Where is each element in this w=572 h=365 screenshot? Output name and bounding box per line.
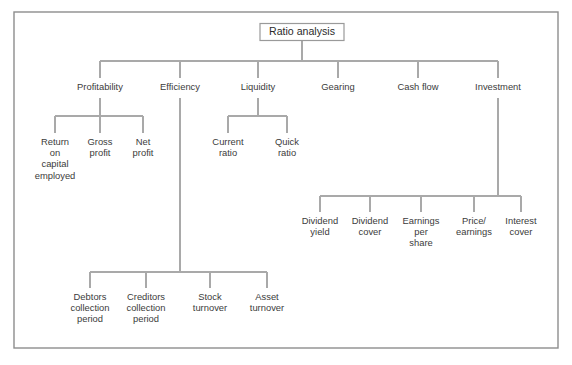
node-labels: ProfitabilityEfficiencyLiquidityGearingC… <box>35 81 537 324</box>
node-efficiency: Efficiency <box>160 81 200 92</box>
node-liquidity: Liquidity <box>241 81 276 92</box>
node-gearing: Gearing <box>321 81 354 92</box>
node-dividend-cover: Dividendcover <box>352 215 388 237</box>
node-current-ratio: Currentratio <box>212 136 244 158</box>
node-earnings-per-share: Earningspershare <box>402 215 439 248</box>
node-debtors-collection-period: Debtorscollectionperiod <box>70 291 109 324</box>
ratio-analysis-diagram: Ratio analysis ProfitabilityEfficiencyLi… <box>0 0 572 365</box>
tree-svg: Ratio analysis ProfitabilityEfficiencyLi… <box>0 0 572 365</box>
node-interest-cover: Interestcover <box>505 215 537 237</box>
node-investment: Investment <box>475 81 521 92</box>
node-gross-profit: Grossprofit <box>87 136 112 158</box>
node-return-on-capital-employed: Returnoncapitalemployed <box>35 136 76 181</box>
node-net-profit: Netprofit <box>133 136 154 158</box>
node-dividend-yield: Dividendyield <box>302 215 338 237</box>
node-quick-ratio: Quickratio <box>275 136 299 158</box>
connector-lines <box>55 41 521 289</box>
root-node-box: Ratio analysis <box>260 24 344 41</box>
node-stock-turnover: Stockturnover <box>193 291 227 313</box>
root-node-label: Ratio analysis <box>269 25 335 37</box>
node-asset-turnover: Assetturnover <box>250 291 284 313</box>
node-creditors-collection-period: Creditorscollectionperiod <box>126 291 165 324</box>
node-profitability: Profitability <box>77 81 123 92</box>
node-cash-flow: Cash flow <box>397 81 438 92</box>
node-price-earnings: Price/earnings <box>456 215 492 237</box>
